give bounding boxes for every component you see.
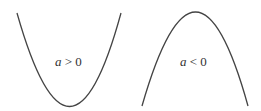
label-condition: > 0 (62, 54, 82, 69)
label-condition: < 0 (187, 54, 207, 69)
parabola-diagram (0, 0, 261, 111)
label-a-positive: a > 0 (55, 54, 82, 70)
label-a-negative: a < 0 (180, 54, 207, 70)
